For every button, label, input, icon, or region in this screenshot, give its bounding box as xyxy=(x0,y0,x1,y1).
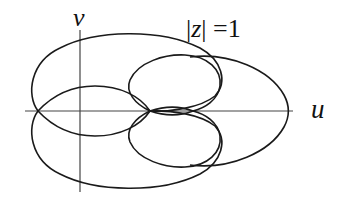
contour-label: |z| =1 xyxy=(186,16,241,42)
lower-outer-lobe xyxy=(32,111,222,188)
v-axis-label: v xyxy=(73,5,85,31)
upper-outer-lobe xyxy=(32,34,222,111)
contour-variable: z xyxy=(191,14,201,43)
curve-plot xyxy=(0,0,347,204)
u-axis-label: u xyxy=(311,96,325,123)
contour-equation: | =1 xyxy=(201,14,240,43)
conformal-map-diagram: v u |z| =1 xyxy=(0,0,347,204)
